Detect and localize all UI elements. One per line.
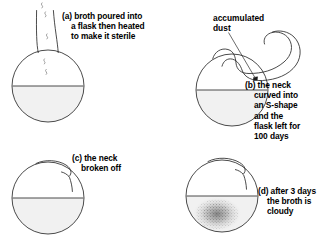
flask-c-neck-break-edge [62,172,70,177]
flask-d-group [184,158,262,236]
caption-a-line-1: (a) broth poured into [62,11,145,21]
flask-d-liquid [184,196,262,236]
caption-b-line-6: 100 days [245,131,300,141]
flask-b-neck-outer [213,32,292,73]
caption-d-line-3: cloudy [258,206,316,216]
annotation-accumulated-dust: accumulateddust [213,13,264,33]
caption-d-line-1: (d) after 3 days [258,186,316,196]
caption-c-line-1: (c) the neck [72,153,121,163]
flask-a-neck-left [36,11,38,53]
caption-a-line-3: to make it sterile [62,31,145,41]
caption-panel-b: (b) the neckcurved intoan S-shapeand the… [245,80,300,141]
pasteur-flask-diagram: (a) broth poured intoa flask then heated… [0,0,335,238]
caption-b-line-4: and the [245,111,300,121]
caption-b-line-5: flask left for [245,121,300,131]
flask-a-neck-right [53,11,58,53]
flask-d-neck-stub-inner [244,175,247,189]
caption-b-line-3: an S-shape [245,100,300,110]
caption-b-line-1: (b) the neck [245,80,300,90]
flask-c-liquid [10,198,88,238]
cloudy-broth-stipple [193,197,241,231]
dust-label-line-2: dust [213,23,231,33]
caption-panel-c: (c) the neckbroken off [72,153,121,173]
flask-c-neck-stub-inner [70,178,73,192]
dust-label-line-1: accumulated [213,13,264,23]
flask-a-vapour-marks [41,3,48,75]
caption-panel-a: (a) broth poured intoa flask then heated… [62,11,145,42]
caption-b-line-2: curved into [245,90,300,100]
caption-d-line-2: the broth is [258,196,316,206]
flask-d-neck-break-edge [235,170,243,175]
caption-c-line-2: broken off [72,163,121,173]
flask-a-liquid [10,86,88,126]
dust-leader-line [229,33,255,78]
caption-a-line-2: a flask then heated [62,21,145,31]
caption-panel-d: (d) after 3 daysthe broth iscloudy [258,186,316,217]
